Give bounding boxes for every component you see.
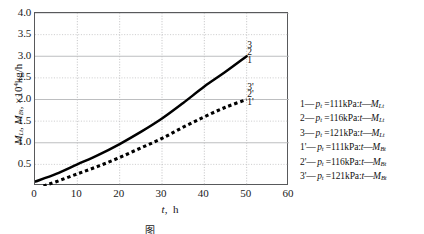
legend-pressure-value: =121kPa:	[322, 128, 360, 138]
legend-dash-1: —	[306, 171, 317, 181]
x-tick-60: 60	[273, 188, 303, 199]
legend-entry-4: 1'— pt =111kPa:t—MBt	[300, 141, 424, 155]
y-axis-sub-lt: Lt	[17, 130, 24, 136]
figure-container: 0.51.01.52.02.53.03.54.0 MLt, MBt, ×104k…	[0, 0, 424, 234]
legend-dash-1: —	[305, 99, 316, 109]
y-tick-3.5: 3.5	[1, 28, 31, 39]
legend-dash-1: —	[305, 113, 316, 123]
legend-pressure-value: =116kPa:	[322, 113, 360, 123]
legend-pressure-value: =111kPa:	[322, 99, 359, 109]
legend-dash-2: —	[364, 171, 373, 181]
x-tick-30: 30	[146, 188, 176, 199]
legend-entry-3: 3— pt =121kPa:t—MLt	[300, 127, 424, 141]
legend-dash-1: —	[306, 157, 317, 167]
y-axis-unit-tail: kg/h	[12, 64, 24, 84]
y-axis-symbol-ml: M	[12, 135, 24, 144]
x-tick-50: 50	[231, 188, 261, 199]
figure-caption: 图	[0, 222, 300, 234]
legend-mass-symbol: M	[371, 99, 379, 109]
legend-entry-2: 2— pt =116kPa:t—MLt	[300, 112, 424, 126]
legend-mass-symbol: M	[372, 142, 380, 152]
y-axis-comma-1: ,	[12, 124, 24, 130]
y-axis-unit-mult: ×10	[12, 87, 24, 104]
x-tick-40: 40	[188, 188, 218, 199]
legend-mass-subscript: Lt	[379, 102, 384, 109]
y-axis-sub-bt: Bt	[17, 109, 24, 115]
legend-mass-subscript: Bt	[381, 160, 387, 167]
legend: 1— pt =111kPa:t—MLt2— pt =116kPa:t—MLt3—…	[300, 98, 424, 184]
legend-mass-symbol: M	[373, 171, 381, 181]
legend-dash-2: —	[364, 157, 373, 167]
legend-entry-1: 1— pt =111kPa:t—MLt	[300, 98, 424, 112]
legend-mass-subscript: Lt	[379, 131, 384, 138]
x-axis-title: t, h	[130, 203, 210, 215]
x-axis-comma: ,	[165, 203, 173, 215]
y-tick-4.0: 4.0	[1, 7, 31, 18]
x-tick-0: 0	[19, 188, 49, 199]
legend-entry-6: 3'— pt =121kPa:t—MBt	[300, 170, 424, 184]
legend-pressure-value: =111kPa:	[324, 142, 361, 152]
legend-mass-subscript: Bt	[380, 145, 386, 152]
legend-dash-2: —	[362, 113, 371, 123]
y-axis-unit-exponent: 4	[12, 83, 19, 86]
legend-mass-symbol: M	[371, 113, 379, 123]
legend-pressure-value: =121kPa:	[324, 171, 362, 181]
legend-mass-subscript: Bt	[381, 174, 387, 181]
legend-dash-2: —	[362, 99, 371, 109]
x-tick-20: 20	[104, 188, 134, 199]
curve-tag-1: 1	[247, 56, 252, 66]
y-axis-title: MLt, MBt, ×104kg/h	[12, 39, 24, 169]
legend-entry-5: 2'— pt =116kPa:t—MBt	[300, 156, 424, 170]
legend-dash-1: —	[305, 128, 316, 138]
curve-tag-1-prime: 1'	[247, 98, 253, 108]
x-axis-tick-labels: 0102030405060	[0, 188, 424, 204]
legend-dash-2: —	[363, 142, 372, 152]
x-axis-unit-h: h	[173, 203, 179, 215]
y-axis-symbol-mb: M	[12, 115, 24, 124]
x-tick-10: 10	[61, 188, 91, 199]
y-axis-comma-2: ,	[12, 104, 24, 110]
curve-1	[43, 100, 246, 187]
legend-dash-1: —	[306, 142, 317, 152]
legend-pressure-value: =116kPa:	[324, 157, 362, 167]
legend-mass-symbol: M	[373, 157, 381, 167]
legend-mass-subscript: Lt	[379, 117, 384, 124]
curve-0	[35, 56, 247, 181]
